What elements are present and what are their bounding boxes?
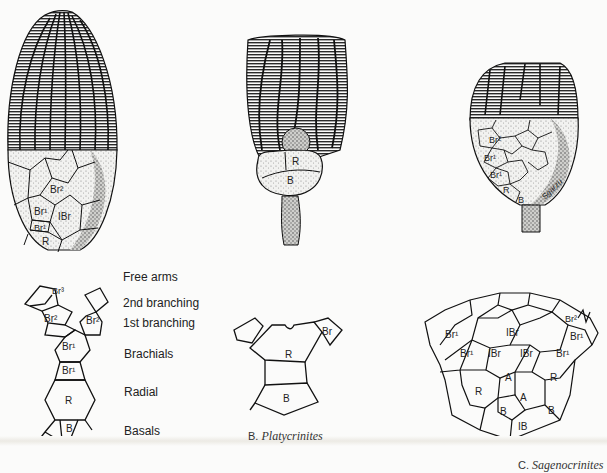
plate-label: IBr — [506, 327, 519, 338]
plate-label: Br¹ — [490, 170, 502, 180]
plate-label: Br¹ — [62, 365, 76, 376]
plate-label: R — [65, 395, 72, 406]
plate-label: IBr — [488, 348, 501, 359]
plate-label: Br¹ — [34, 206, 48, 217]
plate-label: Br¹ — [484, 153, 496, 163]
plate-label: B — [287, 175, 294, 186]
plate-label: R — [550, 372, 557, 383]
caption-letter: B. — [248, 430, 258, 442]
caption-genus: Sagenocrinites — [532, 458, 603, 472]
plate-label: A — [505, 372, 512, 383]
plate-label: Br¹ — [460, 348, 474, 359]
caption-platycrinites: B. Platycrinites — [248, 429, 323, 444]
caption-sagenocrinites: C. Sagenocrinites — [518, 458, 603, 473]
plate-label: Br¹ — [34, 223, 46, 233]
plate-label: B — [66, 423, 73, 434]
legend-free-arms: Free arms — [123, 270, 178, 284]
plate-label: B — [283, 393, 290, 404]
legend-2nd-branching: 2nd branching — [123, 296, 199, 310]
plate-label: IBr — [58, 211, 71, 222]
plate-label: Br² — [44, 313, 58, 324]
plate-label: Br² — [565, 314, 577, 324]
plate-label: R — [475, 386, 482, 397]
plate-label: R — [285, 349, 292, 360]
plate-label: R — [503, 185, 510, 195]
plate-label: R — [42, 236, 49, 247]
plate-label: Br — [322, 326, 333, 337]
plate-label: Br¹ — [570, 331, 584, 342]
plate-label: Br¹ — [62, 341, 76, 352]
specimen-a-illustration: Br² Br¹ IBr Br¹ R — [8, 11, 117, 252]
plate-label: Br³ — [52, 286, 64, 296]
legend-1st-branching: 1st branching — [123, 316, 195, 330]
plate-label: B — [518, 195, 524, 205]
specimen-c-illustration: Br² Br¹ Br¹ R B Sgarzu — [470, 63, 578, 232]
plate-label: Br² — [50, 184, 64, 195]
plate-label: A — [520, 392, 527, 403]
plate-label: Br² — [86, 315, 100, 326]
plate-label: R — [292, 156, 299, 167]
plate-label: Br² — [489, 135, 501, 145]
legend-brachials: Brachials — [124, 347, 173, 361]
caption-genus: Platycrinites — [261, 429, 322, 443]
plate-label: IBr — [520, 348, 533, 359]
legend-radial: Radial — [124, 385, 158, 399]
caption-letter: C. — [518, 459, 529, 471]
plate-label: IB — [518, 421, 528, 432]
plate-label: B — [548, 405, 555, 416]
plate-label: Br¹ — [445, 329, 459, 340]
plate-label: B — [500, 406, 507, 417]
diagram-a-labels: Br³ Br² Br² Br¹ Br¹ R B — [44, 286, 100, 434]
specimen-b-illustration: R B — [247, 35, 348, 245]
plate-label: Br¹ — [556, 348, 570, 359]
